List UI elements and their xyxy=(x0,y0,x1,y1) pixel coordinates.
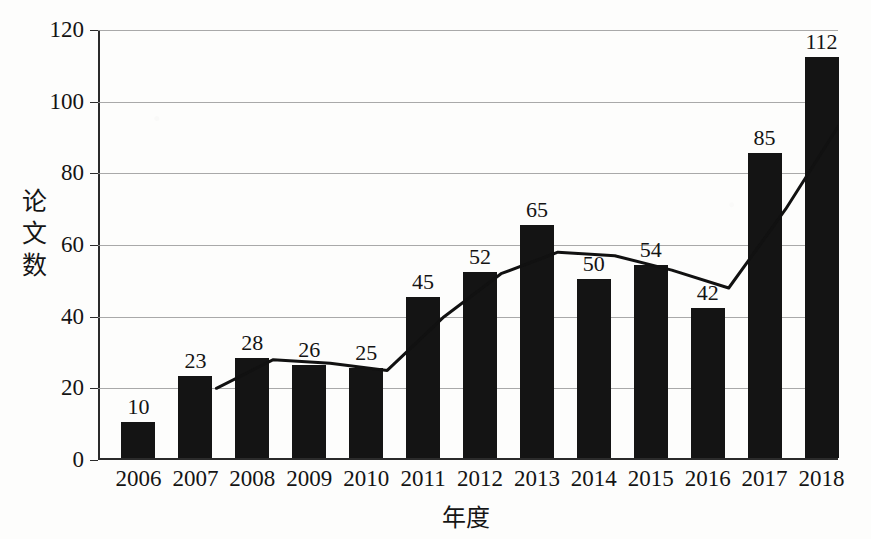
y-axis-tick xyxy=(90,245,98,246)
bar-value-label: 26 xyxy=(298,337,320,363)
bar-value-label: 23 xyxy=(184,348,206,374)
x-axis-tick-label: 2010 xyxy=(343,466,389,492)
bar xyxy=(577,279,611,458)
y-axis-title: 论 文 数 xyxy=(14,186,54,282)
x-axis-line xyxy=(98,458,838,460)
x-axis-tick-label: 2016 xyxy=(685,466,731,492)
x-axis-tick-label: 2014 xyxy=(571,466,617,492)
gridline xyxy=(98,173,838,174)
x-axis-title-text: 年度 xyxy=(442,498,490,533)
bar-value-label: 45 xyxy=(412,269,434,295)
bar xyxy=(634,265,668,459)
x-axis-tick-label: 2011 xyxy=(400,466,445,492)
x-axis-tick-label: 2008 xyxy=(229,466,275,492)
gridline xyxy=(98,30,838,31)
bar-value-label: 54 xyxy=(640,237,662,263)
y-axis-tick xyxy=(90,317,98,318)
x-axis-tick-label: 2009 xyxy=(286,466,332,492)
y-axis-title-char-1: 论 xyxy=(14,186,54,218)
bar-value-label: 10 xyxy=(127,394,149,420)
y-axis-tick xyxy=(90,102,98,103)
y-axis-tick xyxy=(90,460,98,461)
y-axis-title-char-2: 文 xyxy=(14,218,54,250)
bar xyxy=(178,376,212,458)
y-axis-tick-label: 0 xyxy=(73,447,85,473)
bar xyxy=(805,57,839,458)
bar-value-label: 25 xyxy=(355,340,377,366)
x-axis-tick-label: 2017 xyxy=(742,466,788,492)
gridline xyxy=(98,102,838,103)
bar xyxy=(292,365,326,458)
x-axis-tick-label: 2013 xyxy=(514,466,560,492)
plot-area: 020406080100120 102328262545526550544285… xyxy=(98,30,838,460)
y-axis-tick-label: 120 xyxy=(50,17,85,43)
x-axis-tick-label: 2015 xyxy=(628,466,674,492)
bar-value-label: 85 xyxy=(754,125,776,151)
bar xyxy=(235,358,269,458)
bar xyxy=(748,153,782,458)
gridline xyxy=(98,245,838,246)
chart-figure: 论 文 数 020406080100120 102328262545526550… xyxy=(0,0,871,539)
bar-value-label: 50 xyxy=(583,251,605,277)
bar-value-label: 65 xyxy=(526,197,548,223)
x-axis-title: 年度 xyxy=(0,498,871,533)
y-axis-tick-label: 60 xyxy=(61,232,84,258)
bar xyxy=(691,308,725,459)
y-axis-tick-label: 100 xyxy=(50,89,85,115)
bar-value-label: 112 xyxy=(805,29,837,55)
bar xyxy=(520,225,554,458)
bar xyxy=(349,368,383,458)
y-axis-tick-label: 20 xyxy=(61,375,84,401)
x-axis-tick-label: 2007 xyxy=(172,466,218,492)
bar-value-label: 52 xyxy=(469,244,491,270)
y-axis-tick xyxy=(90,30,98,31)
y-axis-title-char-3: 数 xyxy=(14,250,54,282)
bar xyxy=(406,297,440,458)
y-axis-tick-label: 80 xyxy=(61,160,84,186)
x-axis-tick-label: 2018 xyxy=(799,466,845,492)
bar xyxy=(463,272,497,458)
x-axis-tick-label: 2006 xyxy=(115,466,161,492)
bar-value-label: 42 xyxy=(697,280,719,306)
y-axis-tick-label: 40 xyxy=(61,304,84,330)
y-axis-tick xyxy=(90,388,98,389)
bar-value-label: 28 xyxy=(241,330,263,356)
x-axis-tick-label: 2012 xyxy=(457,466,503,492)
y-axis-tick xyxy=(90,173,98,174)
bar xyxy=(121,422,155,458)
